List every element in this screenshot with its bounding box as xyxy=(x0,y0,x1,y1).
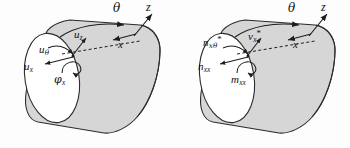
right-nxtheta-base: n xyxy=(203,36,209,48)
left-ux-label: ux xyxy=(24,61,33,74)
left-ux-base: u xyxy=(24,60,30,72)
right-mxx-sub: xx xyxy=(239,79,245,87)
left-ux-sub: x xyxy=(30,66,33,74)
right-z-label: z xyxy=(321,1,326,13)
right-vx-label: vx* xyxy=(248,29,261,44)
right-mxx-base: m xyxy=(231,73,239,85)
left-utheta-sub: θ xyxy=(45,48,49,57)
left-utheta-label: uθ xyxy=(39,44,49,56)
left-phix-base: φ xyxy=(54,73,62,86)
right-nxtheta-label: nxθ* xyxy=(203,35,222,49)
left-z-label: z xyxy=(146,1,151,13)
left-theta-label: θ xyxy=(113,2,120,14)
right-nxtheta-sub: xθ xyxy=(209,41,217,50)
right-nxx-sub: xx xyxy=(204,66,210,74)
right-mxx-label: mxx xyxy=(231,74,246,87)
right-theta-label: θ xyxy=(288,2,295,14)
right-nxtheta-star: * xyxy=(217,34,221,44)
right-nxx-label: nxx xyxy=(198,61,210,74)
left-uz-label: uz xyxy=(74,29,83,42)
right-origin-dot xyxy=(247,55,250,58)
left-phix-label: φx xyxy=(54,74,65,87)
right-x-label: x xyxy=(293,39,298,50)
left-utheta-base: u xyxy=(39,43,45,55)
left-uz-base: u xyxy=(74,28,80,40)
left-uz-sub: z xyxy=(80,34,83,42)
right-vx-star: * xyxy=(256,28,260,38)
right-nxx-base: n xyxy=(198,60,204,72)
right-panel-graphics xyxy=(0,0,350,148)
left-phix-sub: x xyxy=(62,79,65,87)
figure-canvas: θ z x uz uθ ux φx θ z x vx* nxθ* nxx mxx xyxy=(0,0,350,148)
left-x-label: x xyxy=(118,39,123,50)
